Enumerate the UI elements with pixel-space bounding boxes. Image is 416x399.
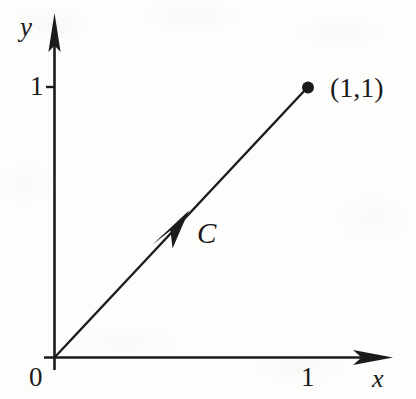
y-axis-label: y bbox=[20, 14, 32, 41]
origin-label: 0 bbox=[29, 364, 43, 391]
x-axis-label: x bbox=[372, 366, 384, 392]
curve-label-c: C bbox=[197, 219, 216, 248]
endpoint-coordinate-label: (1,1) bbox=[330, 74, 384, 102]
y-tick-label-1: 1 bbox=[30, 73, 44, 100]
x-tick-label-1: 1 bbox=[301, 364, 315, 391]
path-direction-arrowhead-icon bbox=[152, 211, 189, 249]
axes-and-path-graphic bbox=[0, 0, 416, 399]
endpoint-dot-marker bbox=[302, 82, 314, 94]
figure-canvas: y x 0 1 1 C (1,1) bbox=[0, 0, 416, 399]
